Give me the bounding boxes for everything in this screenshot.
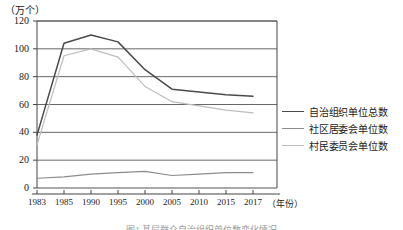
x-tick-label: 2005 bbox=[157, 197, 187, 207]
axis-lines bbox=[32, 21, 280, 194]
y-tick-label: 80 bbox=[3, 71, 29, 82]
legend-item: 村民委员会单位数 bbox=[282, 137, 400, 154]
legend-line-swatch-2 bbox=[282, 145, 304, 146]
legend-item: 自治组织单位总数 bbox=[282, 103, 400, 120]
x-tick-label: 2010 bbox=[184, 197, 214, 207]
y-tick-label: 120 bbox=[3, 15, 29, 26]
legend-item: 社区居委会单位数 bbox=[282, 120, 400, 137]
figure-caption: 图1 基层群众自治组织单位数变化情况 bbox=[0, 223, 403, 230]
legend-line-swatch-1 bbox=[282, 128, 304, 129]
y-tick-label: 100 bbox=[3, 43, 29, 54]
y-tick-marks bbox=[33, 21, 37, 188]
series-line-0 bbox=[37, 35, 253, 135]
x-tick-label: 2000 bbox=[130, 197, 160, 207]
legend-label-2: 村民委员会单位数 bbox=[309, 138, 387, 153]
x-axis-unit-label: （年份） bbox=[267, 197, 303, 210]
chart-figure: （万个） 120100806040200 1983198519901995200… bbox=[0, 0, 403, 230]
x-tick-label: 1983 bbox=[22, 197, 52, 207]
chart-legend: 自治组织单位总数 社区居委会单位数 村民委员会单位数 bbox=[282, 103, 400, 154]
series-line-1 bbox=[37, 171, 253, 178]
legend-line-swatch-0 bbox=[282, 111, 304, 112]
y-tick-label: 0 bbox=[3, 182, 29, 193]
legend-label-1: 社区居委会单位数 bbox=[309, 121, 387, 136]
data-series-group bbox=[37, 35, 253, 178]
y-tick-label: 60 bbox=[3, 99, 29, 110]
x-tick-label: 1995 bbox=[103, 197, 133, 207]
x-tick-label: 1985 bbox=[49, 197, 79, 207]
legend-label-0: 自治组织单位总数 bbox=[309, 104, 387, 119]
y-tick-label: 20 bbox=[3, 154, 29, 165]
x-tick-marks bbox=[37, 190, 253, 194]
y-tick-label: 40 bbox=[3, 126, 29, 137]
x-tick-label: 1990 bbox=[76, 197, 106, 207]
gridlines bbox=[37, 21, 277, 188]
x-tick-label: 2015 bbox=[211, 197, 241, 207]
series-line-2 bbox=[37, 49, 253, 145]
x-tick-label: 2017 bbox=[238, 197, 268, 207]
